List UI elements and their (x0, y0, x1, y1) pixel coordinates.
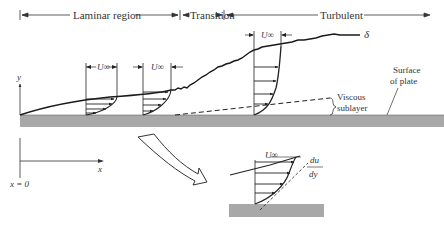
dy-label: dy (309, 169, 318, 179)
plate-surface (20, 115, 444, 127)
viscous-sublayer-label-line1: Viscous (337, 92, 366, 102)
viscous-sublayer-label-line2: sublayer (337, 103, 368, 113)
y-axis-label: y (16, 72, 21, 82)
boundary-layer-diagram: Laminar region Transition Turbulent y δ … (0, 0, 444, 225)
u-infinity-label-1: U∞ (97, 62, 110, 72)
u-infinity-label-3: U∞ (261, 30, 274, 40)
transition-region-label: Transition (190, 9, 235, 21)
delta-label: δ (364, 28, 370, 40)
x-axis-label: x (97, 164, 102, 174)
du-label: du (310, 155, 320, 165)
turbulent-region-label: Turbulent (320, 9, 363, 21)
viscous-sublayer-line (175, 98, 330, 115)
u-infinity-label-2: U∞ (151, 62, 164, 72)
boundary-layer-thickness-curve (20, 34, 360, 115)
inset-u-infinity-label: U∞ (265, 150, 278, 160)
origin-label: x = 0 (9, 179, 30, 189)
inset-plate (229, 204, 324, 217)
zoom-arrow (138, 134, 207, 185)
surface-of-plate-label-line1: Surface (393, 65, 420, 75)
coordinate-axes (20, 138, 104, 178)
viscous-sublayer-brace (330, 98, 336, 115)
surface-leader-line (387, 88, 398, 115)
inset-detail (229, 156, 324, 217)
surface-of-plate-label-line2: of plate (390, 76, 417, 86)
laminar-region-label: Laminar region (73, 9, 142, 21)
